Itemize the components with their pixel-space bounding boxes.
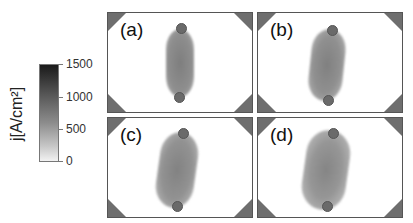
panel-d: (d) [257,117,403,218]
colorbar-tick-label: 0 [66,154,73,168]
electrode-top [176,23,187,34]
colorbar-label-text: j[A/cm²] [8,87,26,141]
corner-tr [234,118,252,136]
electrode-bottom [322,201,333,212]
panel-b: (b) [257,12,403,113]
colorbar-label: j[A/cm²] [2,62,32,166]
colorbar-tick [59,64,63,65]
colorbar-tick-label: 500 [66,122,86,136]
panel-c: (c) [107,117,253,218]
corner-bl [258,94,276,112]
colorbar-tick [59,129,63,130]
panel-label: (d) [270,124,293,146]
colorbar [39,64,59,162]
colorbar-tick [59,97,63,98]
corner-tr [384,118,402,136]
corner-bl [258,199,276,217]
colorbar-tick [59,161,63,162]
current-channel [166,29,194,97]
colorbar-tick-label: 1000 [66,90,93,104]
electrode-top [178,128,189,139]
panel-label: (a) [120,19,143,41]
current-channel [306,27,347,102]
colorbar-tick-label: 1500 [66,57,93,71]
electrode-bottom [323,95,334,106]
electrode-top [328,128,339,139]
current-channel [153,130,201,211]
corner-tr [384,13,402,31]
corner-bl [108,199,126,217]
electrode-bottom [174,92,185,103]
electrode-top [327,25,338,36]
panel-a: (a) [107,12,253,113]
corner-br [234,94,252,112]
electrode-bottom [172,201,183,212]
corner-br [384,199,402,217]
current-channel [299,127,354,212]
corner-tr [234,13,252,31]
corner-br [234,199,252,217]
panel-label: (b) [270,19,293,41]
panel-label: (c) [120,124,142,146]
corner-br [384,94,402,112]
corner-bl [108,94,126,112]
